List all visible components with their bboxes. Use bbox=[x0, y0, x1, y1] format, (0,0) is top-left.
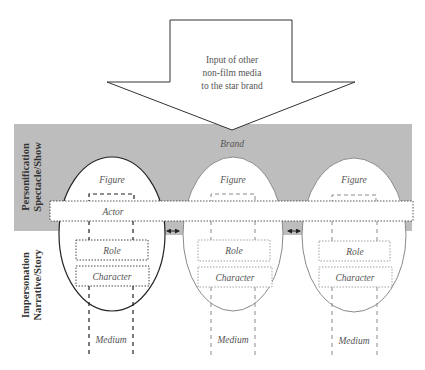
role-label: Role bbox=[345, 247, 363, 257]
character-label: Character bbox=[335, 273, 374, 283]
side-label-narrative: Narrative/Story bbox=[32, 249, 43, 321]
side-label-personification: Personification bbox=[20, 143, 31, 211]
figure-label: Figure bbox=[98, 175, 125, 185]
medium-label: Medium bbox=[216, 335, 248, 345]
side-label-impersonation: Impersonation bbox=[20, 252, 31, 318]
side-label-spectacle: Spectacle/Show bbox=[32, 142, 43, 212]
character-label: Character bbox=[215, 273, 254, 283]
medium-label: Medium bbox=[337, 336, 369, 346]
star-ellipse-3: Figure Role Character Medium bbox=[302, 158, 406, 357]
arrow-text-line-2: non-film media bbox=[203, 68, 263, 78]
star-ellipse-1: Figure Role Character Medium bbox=[59, 157, 165, 356]
medium-label: Medium bbox=[94, 335, 126, 345]
arrow-text-line-1: Input of other bbox=[206, 55, 259, 65]
character-label: Character bbox=[92, 272, 131, 282]
figure-label: Figure bbox=[340, 175, 367, 185]
arrow-text-line-3: to the star brand bbox=[201, 81, 263, 91]
star-brand-diagram: Input of other non-film media to the sta… bbox=[0, 0, 425, 370]
role-label: Role bbox=[224, 246, 242, 256]
actor-label: Actor bbox=[101, 207, 123, 217]
star-ellipse-2: Figure Role Character Medium bbox=[183, 157, 283, 356]
figure-label: Figure bbox=[219, 175, 246, 185]
brand-label: Brand bbox=[220, 139, 244, 149]
role-label: Role bbox=[102, 246, 120, 256]
